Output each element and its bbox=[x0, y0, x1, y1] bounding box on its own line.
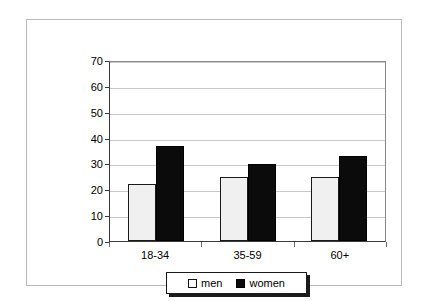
y-axis-tick-label: 20 bbox=[57, 185, 103, 195]
bar-group bbox=[128, 61, 184, 241]
x-axis-tick-label: 60+ bbox=[294, 249, 386, 262]
bar-women-18-34[interactable] bbox=[156, 146, 184, 241]
legend-item-men[interactable]: men bbox=[188, 277, 222, 289]
chart-figure-frame: 010203040506070 18-3435-5960+ menwomen bbox=[26, 19, 402, 286]
y-axis-tick-labels: 010203040506070 bbox=[55, 61, 103, 242]
x-axis-tick-label: 18-34 bbox=[109, 249, 201, 262]
bar-group bbox=[220, 61, 276, 241]
y-axis-tick-label: 50 bbox=[57, 108, 103, 118]
y-axis-tick-label: 0 bbox=[57, 237, 103, 247]
x-axis-tick-label: 35-59 bbox=[201, 249, 293, 262]
bar-group bbox=[311, 61, 367, 241]
legend-label: women bbox=[249, 277, 284, 289]
y-axis-tick-label: 70 bbox=[57, 56, 103, 66]
x-axis-tick-mark bbox=[201, 242, 202, 247]
bar-women-60+[interactable] bbox=[339, 156, 367, 241]
bar-series-layer bbox=[110, 61, 385, 241]
y-axis-tick-label: 60 bbox=[57, 82, 103, 92]
y-axis-tick-label: 40 bbox=[57, 134, 103, 144]
x-axis-tick-marks bbox=[109, 242, 386, 247]
x-axis-tick-mark bbox=[294, 242, 295, 247]
chart-legend[interactable]: menwomen bbox=[166, 272, 307, 294]
bar-men-18-34[interactable] bbox=[128, 184, 156, 241]
bar-women-35-59[interactable] bbox=[248, 164, 276, 241]
y-axis-tick-label: 10 bbox=[57, 211, 103, 221]
x-axis-tick-labels: 18-3435-5960+ bbox=[109, 249, 386, 265]
bar-men-60+[interactable] bbox=[311, 177, 339, 241]
x-axis-tick-mark bbox=[109, 242, 110, 247]
bar-men-35-59[interactable] bbox=[220, 177, 248, 241]
legend-item-women[interactable]: women bbox=[236, 277, 284, 289]
legend-swatch-women-icon bbox=[236, 279, 245, 288]
x-axis-tick-mark bbox=[386, 242, 387, 247]
legend-swatch-men-icon bbox=[188, 279, 197, 288]
legend-label: men bbox=[201, 277, 222, 289]
y-axis-tick-label: 30 bbox=[57, 159, 103, 169]
